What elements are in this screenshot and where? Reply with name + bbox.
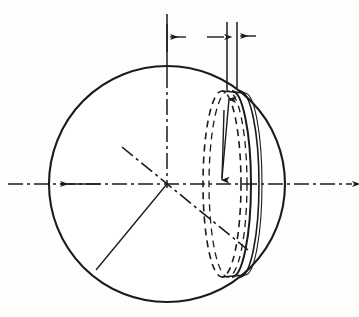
sphere-disc-diagram	[0, 0, 359, 317]
figure-root	[0, 0, 359, 317]
